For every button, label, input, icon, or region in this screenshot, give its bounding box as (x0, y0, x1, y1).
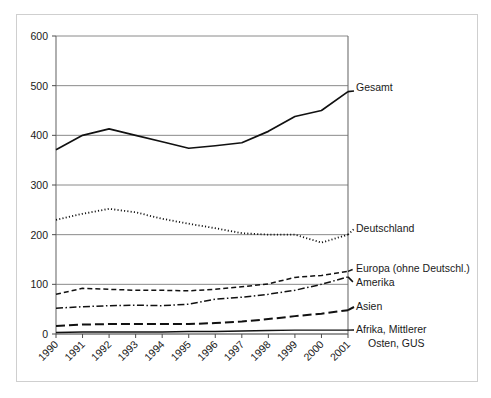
series-label-afrika-mittlerer: Afrika, Mittlerer (356, 323, 427, 335)
data-series (56, 92, 348, 333)
x-tick-label-1994: 1994 (142, 338, 167, 363)
y-tick-label-500: 500 (30, 80, 48, 92)
y-axis-tick-labels: 0100200300400500600 (30, 30, 48, 340)
y-tick-label-100: 100 (30, 278, 48, 290)
chart-page: 0100200300400500600 19901991199219931994… (0, 0, 491, 398)
series-label-amerika: Amerika (356, 276, 395, 288)
x-tick-label-1995: 1995 (168, 338, 193, 363)
series-label-asien: Asien (356, 300, 382, 312)
leader-line-0 (348, 91, 354, 92)
x-tick-label-1997: 1997 (221, 338, 246, 363)
series-line-deutschland (56, 209, 348, 243)
series-label-europa-ohne-deutschl: Europa (ohne Deutschl.) (356, 262, 470, 274)
series-line-amerika (56, 277, 348, 308)
label-leader-lines (348, 91, 354, 330)
leader-line-1 (348, 229, 354, 235)
series-label-gesamt: Gesamt (356, 81, 393, 93)
x-tick-label-1993: 1993 (115, 338, 140, 363)
leader-line-3 (348, 277, 354, 283)
x-tick-label-1996: 1996 (195, 338, 220, 363)
series-label-osten-gus: Osten, GUS (368, 337, 425, 349)
x-tick-label-2000: 2000 (301, 338, 326, 363)
y-tick-label-400: 400 (30, 129, 48, 141)
x-tick-label-1999: 1999 (274, 338, 299, 363)
y-tick-label-200: 200 (30, 229, 48, 241)
leader-line-4 (348, 307, 354, 310)
tick-marks (52, 36, 348, 338)
x-tick-label-1990: 1990 (35, 338, 60, 363)
leader-line-2 (348, 269, 354, 271)
series-line-europa-ohne-deutschl (56, 271, 348, 294)
x-tick-label-1991: 1991 (62, 338, 87, 363)
series-line-afrika-mittlerer-osten-gus (56, 330, 348, 332)
line-chart: 0100200300400500600 19901991199219931994… (0, 0, 491, 398)
y-tick-label-300: 300 (30, 179, 48, 191)
y-tick-label-600: 600 (30, 30, 48, 42)
y-tick-label-0: 0 (42, 328, 48, 340)
x-tick-label-1992: 1992 (89, 338, 114, 363)
x-tick-label-1998: 1998 (248, 338, 273, 363)
x-tick-label-2001: 2001 (327, 338, 352, 363)
series-line-asien (56, 310, 348, 326)
x-axis-tick-labels: 1990199119921993199419951996199719981999… (35, 338, 352, 363)
series-labels: GesamtDeutschlandEuropa (ohne Deutschl.)… (356, 81, 470, 349)
series-line-gesamt (56, 92, 348, 150)
series-label-deutschland: Deutschland (356, 222, 415, 234)
